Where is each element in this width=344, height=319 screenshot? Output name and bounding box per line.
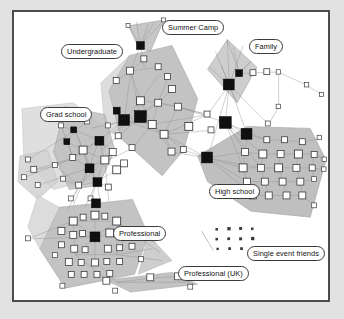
node-hub [219, 117, 231, 129]
node-isolated [228, 247, 231, 250]
node [160, 130, 168, 138]
node [70, 155, 76, 161]
node [92, 259, 99, 266]
node [60, 283, 65, 288]
node [297, 178, 304, 185]
node-isolated [227, 237, 230, 240]
node [68, 196, 73, 201]
node [208, 127, 214, 133]
node [82, 247, 88, 253]
node [293, 164, 300, 171]
node [113, 166, 121, 174]
node-hub [223, 79, 234, 90]
node [126, 23, 130, 27]
node [113, 217, 121, 225]
node [78, 260, 84, 266]
node-hub [85, 164, 94, 173]
network-diagram-plate: Summer Camp Family Undergraduate Grad sc… [12, 10, 330, 302]
node-isolated [239, 237, 242, 240]
node [101, 156, 109, 164]
node-hub [136, 42, 144, 50]
community-label-professional[interactable]: Professional [113, 226, 166, 241]
node [53, 253, 58, 258]
node [185, 122, 193, 130]
node [299, 192, 306, 199]
node [276, 70, 280, 74]
node [68, 271, 74, 277]
node-hub [95, 136, 104, 145]
node [80, 230, 86, 236]
community-label-professional-uk[interactable]: Professional (UK) [178, 266, 249, 281]
node [35, 183, 40, 188]
node [105, 123, 110, 128]
node [276, 104, 280, 108]
node [204, 111, 210, 117]
node-hub [134, 111, 146, 123]
node [242, 149, 249, 156]
node [265, 192, 272, 199]
community-label-grad-school[interactable]: Grad school [40, 107, 92, 122]
node [239, 164, 247, 172]
node [312, 177, 317, 182]
node [322, 157, 326, 161]
node [317, 135, 321, 139]
community-label-family[interactable]: Family [249, 39, 283, 54]
node [147, 274, 154, 281]
node-hub [93, 178, 102, 187]
node [148, 120, 156, 128]
node [71, 245, 78, 252]
node-hub [90, 232, 100, 242]
node [294, 150, 302, 158]
node [81, 271, 87, 277]
node [311, 152, 317, 158]
node [104, 245, 111, 252]
node [277, 151, 284, 158]
node [21, 175, 26, 180]
node [136, 97, 144, 105]
node [58, 228, 65, 235]
node-isolated [239, 227, 242, 230]
node-hub [241, 128, 252, 139]
node [309, 165, 315, 171]
node-isolated [227, 227, 230, 230]
node [103, 277, 110, 284]
community-label-undergraduate[interactable]: Undergraduate [61, 44, 123, 59]
figure-root: Summer Camp Family Undergraduate Grad sc… [0, 0, 344, 319]
node-isolated [215, 228, 218, 231]
node [257, 164, 264, 171]
node [107, 270, 113, 276]
node [250, 70, 256, 76]
node [113, 288, 118, 293]
node [188, 284, 193, 289]
node [117, 259, 123, 265]
node [104, 259, 110, 265]
node [304, 83, 308, 87]
node [259, 150, 267, 158]
node [102, 213, 108, 219]
community-label-high-school[interactable]: High school [209, 184, 260, 199]
node [121, 160, 128, 167]
node [79, 146, 87, 154]
node-hub [71, 127, 77, 133]
node [320, 92, 324, 96]
node [322, 167, 326, 171]
node [279, 178, 286, 185]
node [31, 166, 37, 172]
node [275, 164, 283, 172]
node-isolated [240, 247, 243, 250]
node-hub [202, 152, 213, 163]
node-isolated [251, 237, 254, 240]
node [168, 148, 175, 155]
node [299, 139, 305, 145]
node [282, 137, 288, 143]
node [129, 145, 135, 151]
node [180, 147, 186, 153]
community-label-summer-camp[interactable]: Summer Camp [162, 20, 224, 35]
node [115, 133, 121, 139]
node [155, 64, 161, 70]
node-isolated [215, 238, 218, 241]
community-label-single-event-friends[interactable]: Single event friends [247, 246, 325, 261]
node [117, 245, 123, 251]
node-hub [119, 115, 130, 126]
node [109, 149, 116, 156]
